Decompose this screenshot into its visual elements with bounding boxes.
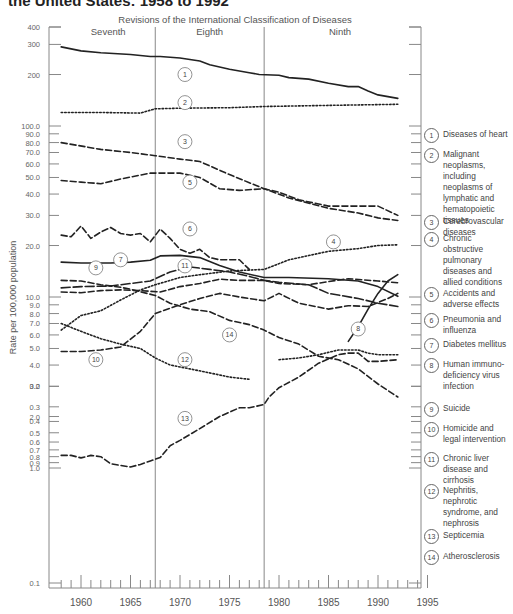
x-tick-label: 1990 xyxy=(367,597,390,608)
x-tick-label: 1995 xyxy=(416,597,439,608)
legend-item: 7Diabetes mellitus xyxy=(424,338,506,353)
y-tick-label: 400 xyxy=(27,23,40,32)
legend-number-circle: 6 xyxy=(424,313,439,328)
y-tick-label: 0.2 xyxy=(30,382,40,391)
legend-item: 4Chronic obstructive pulmonary diseases … xyxy=(424,232,513,288)
y-axis-label: Rate per 100,000 population xyxy=(8,241,18,355)
series-number: 6 xyxy=(188,225,192,232)
series-number-labels: 1234567891011121314 xyxy=(89,68,365,426)
revision-label: Seventh xyxy=(91,26,126,37)
series-line-5 xyxy=(61,173,398,215)
revision-label: Eighth xyxy=(196,26,223,37)
legend-number-circle: 1 xyxy=(424,128,439,143)
series-line-13 xyxy=(61,353,398,467)
legend-number-circle: 12 xyxy=(424,484,439,499)
y-tick-label: 300 xyxy=(27,40,40,49)
legend-item: 5Accidents and adverse effects xyxy=(424,287,513,310)
series-line-10 xyxy=(61,293,398,351)
x-tick-label: 1970 xyxy=(169,597,192,608)
y-tick-label: 4.0 xyxy=(30,361,40,370)
legend-label: Diabetes mellitus xyxy=(443,339,506,350)
revision-label: Ninth xyxy=(329,26,351,37)
series-number: 4 xyxy=(331,238,335,245)
y-tick-label: 200 xyxy=(27,71,40,80)
axes: 400300200100.090.080.070.060.050.040.030… xyxy=(8,14,439,608)
legend-item: 8Human immuno- deficiency virus infectio… xyxy=(424,358,513,392)
series-number: 5 xyxy=(188,179,192,186)
legend-number-circle: 7 xyxy=(424,338,439,353)
series-number: 8 xyxy=(356,325,360,332)
y-tick-label: 0.6 xyxy=(30,438,40,447)
series-number: 7 xyxy=(119,256,123,263)
legend-label: Chronic obstructive pulmonary diseases a… xyxy=(443,233,513,288)
series-line-1 xyxy=(61,47,398,99)
y-tick-label: 70.0 xyxy=(25,148,40,157)
legend-item: 13Septicemia xyxy=(424,529,484,544)
legend-label: Nephritis, nephrotic syndrome, and nephr… xyxy=(443,485,513,529)
y-tick-label: 30.0 xyxy=(25,211,40,220)
legend-item: 12Nephritis, nephrotic syndrome, and nep… xyxy=(424,484,513,529)
series-number: 2 xyxy=(183,99,187,106)
legend-label: Diseases of heart xyxy=(443,129,508,140)
y-tick-label: 6.0 xyxy=(30,331,40,340)
series-line-12 xyxy=(279,350,398,360)
legend-number-circle: 13 xyxy=(424,529,439,544)
legend-item: 6Pneumonia and influenza xyxy=(424,313,513,336)
x-tick-label: 1985 xyxy=(317,597,340,608)
legend-number-circle: 10 xyxy=(424,422,439,437)
legend-label: Accidents and adverse effects xyxy=(443,288,513,310)
y-tick-label: 8.0 xyxy=(30,310,40,319)
legend-label: Suicide xyxy=(443,403,470,414)
legend-label: Septicemia xyxy=(443,530,484,541)
legend-item: 10Homicide and legal intervention xyxy=(424,422,513,445)
data-series xyxy=(61,47,398,467)
chart-subtitle: Revisions of the International Classific… xyxy=(118,14,352,25)
legend-label: Human immuno- deficiency virus infection xyxy=(443,359,513,392)
legend-item: 14Atherosclerosis xyxy=(424,550,500,565)
series-number: 3 xyxy=(183,138,187,145)
legend-number-circle: 4 xyxy=(424,232,439,247)
legend-label: Homicide and legal intervention xyxy=(443,423,513,445)
legend-item: 1Diseases of heart xyxy=(424,128,508,143)
series-line-2 xyxy=(61,104,398,113)
legend-number-circle: 3 xyxy=(424,215,439,230)
legend-number-circle: 5 xyxy=(424,287,439,302)
series-line-4 xyxy=(61,245,398,330)
legend-number-circle: 9 xyxy=(424,402,439,417)
y-tick-label: 9.0 xyxy=(30,301,40,310)
x-tick-label: 1980 xyxy=(268,597,291,608)
series-number: 13 xyxy=(181,415,189,422)
x-tick-label: 1975 xyxy=(218,597,241,608)
y-tick-label: 7.0 xyxy=(30,319,40,328)
series-number: 11 xyxy=(181,262,188,269)
legend-number-circle: 11 xyxy=(424,452,439,467)
legend-number-circle: 8 xyxy=(424,358,439,373)
y-tick-label: 20.0 xyxy=(25,242,40,251)
y-tick-label: 80.0 xyxy=(25,139,40,148)
revision-dividers: SeventhEighthNinth xyxy=(91,26,351,588)
legend-number-circle: 14 xyxy=(424,550,439,565)
y-tick-label: 0.5 xyxy=(30,429,40,438)
legend-item: 11Chronic liver disease and cirrhosis xyxy=(424,452,513,486)
y-tick-label: 60.0 xyxy=(25,160,40,169)
y-tick-label: 50.0 xyxy=(25,173,40,182)
legend-item: 9Suicide xyxy=(424,402,470,417)
series-number: 1 xyxy=(183,71,187,78)
series-number: 12 xyxy=(181,356,189,363)
series-number: 14 xyxy=(226,331,234,338)
y-tick-label: 90.0 xyxy=(25,130,40,139)
legend-label: Chronic liver disease and cirrhosis xyxy=(443,453,513,486)
x-tick-label: 1965 xyxy=(119,597,142,608)
legend-number-circle: 2 xyxy=(424,148,439,163)
legend-label: Pneumonia and influenza xyxy=(443,314,513,336)
x-tick-label: 1960 xyxy=(70,597,93,608)
y-tick-label: 40.0 xyxy=(25,190,40,199)
y-tick-label: 5.0 xyxy=(30,344,40,353)
y-tick-label: 0.4 xyxy=(30,417,40,426)
y-tick-label: 0.7 xyxy=(30,446,40,455)
series-number: 10 xyxy=(92,356,100,363)
y-tick-label: 0.1 xyxy=(30,579,40,588)
series-number: 9 xyxy=(94,264,98,271)
legend-label: Atherosclerosis xyxy=(443,551,500,562)
y-tick-label: 0.3 xyxy=(30,403,40,412)
